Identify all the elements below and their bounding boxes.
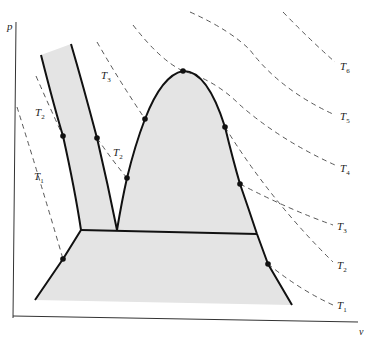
critical-point [180, 68, 186, 74]
label-t6: T6 [340, 60, 350, 75]
y-axis [13, 22, 16, 318]
point-t1-vapor [265, 261, 271, 267]
label-t2: T2 [337, 259, 347, 274]
x-axis [13, 316, 358, 322]
point-t2-band-left [60, 133, 66, 139]
label-t4: T4 [340, 162, 350, 177]
label-t3: T3 [337, 220, 347, 235]
y-axis-label: p [6, 20, 13, 32]
label-t2-left: T2 [35, 106, 45, 121]
isotherm-t6 [283, 12, 335, 62]
x-axis-label: v [359, 326, 364, 337]
label-t2-mid: T2 [113, 146, 123, 161]
label-t1-left: T1 [34, 170, 44, 185]
label-t1: T1 [337, 299, 347, 314]
label-t3-top: T3 [101, 69, 111, 84]
point-t2-band-right [94, 135, 100, 141]
isotherm-t3-right [240, 184, 333, 225]
point-t2-dome-left [124, 175, 130, 181]
pv-phase-diagram: p v T1 T2 T3 T2 T6 T5 T4 T3 T2 T1 [0, 0, 371, 339]
point-t1-solid-vapor [60, 256, 66, 262]
label-t5: T5 [340, 110, 350, 125]
point-t3-dome-left [142, 116, 148, 122]
point-dome-right-lower [237, 181, 243, 187]
liquid-vapor-dome-region [117, 71, 257, 234]
point-dome-right-upper [222, 124, 228, 130]
